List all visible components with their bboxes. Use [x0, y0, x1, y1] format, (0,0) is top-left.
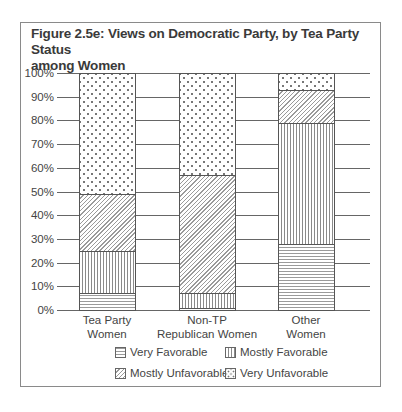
legend-label: Mostly Unfavorable — [130, 366, 228, 380]
bar-segment-mostly-unfavorable — [79, 194, 136, 252]
y-tick-label: 70% — [22, 138, 54, 150]
legend-label: Very Unfavorable — [240, 366, 328, 380]
y-tick-label: 50% — [22, 186, 54, 198]
bar-segment-very-unfavorable — [278, 73, 335, 91]
bar-non-tp-republican-women — [179, 73, 236, 311]
chart-title-line-1: Figure 2.5e: Views on Democratic Party, … — [31, 26, 371, 58]
chart-title: Figure 2.5e: Views on Democratic Party, … — [31, 26, 371, 74]
legend-item-mostly-favorable: Mostly Favorable — [225, 345, 328, 359]
bar-segment-mostly-unfavorable — [179, 175, 236, 295]
vertical-lines-swatch-icon — [225, 347, 236, 358]
y-tick-label: 100% — [22, 67, 54, 79]
bar-other-women — [278, 73, 335, 311]
y-tick-label: 10% — [22, 280, 54, 292]
y-tick-label: 90% — [22, 91, 54, 103]
bar-tea-party-women — [79, 73, 136, 311]
bar-segment-mostly-favorable — [179, 293, 236, 308]
chart-title-line-2: among Women — [31, 58, 371, 74]
bar-segment-very-unfavorable — [179, 73, 236, 176]
legend-item-very-unfavorable: Very Unfavorable — [225, 366, 328, 380]
y-tick-label: 20% — [22, 257, 54, 269]
bar-segment-mostly-favorable — [278, 123, 335, 245]
bar-segment-very-favorable — [278, 244, 335, 311]
y-tick-label: 60% — [22, 162, 54, 174]
legend-item-very-favorable: Very Favorable — [115, 345, 207, 359]
y-tick-label: 80% — [22, 114, 54, 126]
dots-swatch-icon — [225, 368, 236, 379]
bar-segment-very-unfavorable — [79, 73, 136, 195]
legend-item-mostly-unfavorable: Mostly Unfavorable — [115, 366, 228, 380]
horizontal-lines-swatch-icon — [115, 347, 126, 358]
bar-segment-very-favorable — [79, 293, 136, 311]
x-tick-label: OtherWomen — [246, 313, 366, 341]
y-tick-label: 40% — [22, 209, 54, 221]
y-tick-label: 30% — [22, 233, 54, 245]
legend-label: Mostly Favorable — [240, 345, 328, 359]
diagonal-lines-swatch-icon — [115, 368, 126, 379]
bar-segment-mostly-unfavorable — [278, 90, 335, 124]
bar-segment-mostly-favorable — [79, 251, 136, 295]
legend-label: Very Favorable — [130, 345, 207, 359]
